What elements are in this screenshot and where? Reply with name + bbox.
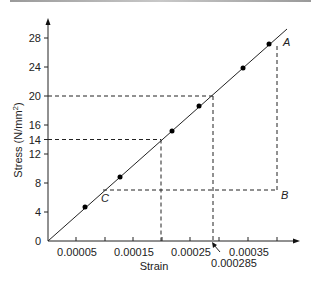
x-axis (48, 239, 300, 244)
y-tick-label: 24 (29, 61, 41, 73)
data-points (83, 42, 272, 210)
x-tick-label: 0.00025 (171, 246, 211, 258)
data-point (267, 42, 272, 47)
y-tick-label: 20 (29, 90, 41, 102)
point-label-c: C (101, 192, 109, 204)
strain-callout-arrow-icon (212, 242, 220, 252)
y-tick-label: 12 (29, 148, 41, 160)
x-tick-label: 0.00015 (114, 246, 154, 258)
reference-lines (48, 46, 277, 241)
data-point (118, 175, 123, 180)
x-ticks (76, 237, 277, 241)
x-tick-label: 0.00005 (57, 246, 97, 258)
strain-callout-label: 0.000285 (211, 257, 257, 269)
x-axis-arrow-icon (293, 239, 300, 244)
y-tick-label: 0 (35, 235, 41, 247)
y-tick-label: 16 (29, 119, 41, 131)
data-point (197, 104, 202, 109)
y-tick-label: 8 (35, 177, 41, 189)
x-axis-title: Strain (140, 260, 169, 272)
y-axis (46, 18, 51, 241)
data-point (170, 129, 175, 134)
y-axis-arrow-icon (46, 18, 51, 25)
y-tick-labels: 0 4 8 12 14 16 20 24 28 (29, 32, 41, 247)
y-tick-label: 14 (29, 134, 41, 146)
y-tick-label: 28 (29, 32, 41, 44)
point-label-b: B (281, 189, 288, 201)
data-point (241, 66, 246, 71)
y-tick-label: 4 (35, 206, 41, 218)
y-ticks (44, 38, 48, 212)
point-label-a: A (282, 36, 290, 48)
y-axis-title: Stress (N/mm2) (11, 102, 24, 177)
stress-strain-chart: 0 4 8 12 14 16 20 24 28 0.00005 0.00015 … (0, 0, 311, 281)
data-point (83, 205, 88, 210)
